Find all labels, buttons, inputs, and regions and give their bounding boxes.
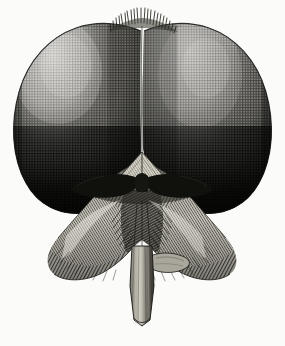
paper-tone-wash (0, 0, 285, 346)
fly-head-engraving (0, 0, 285, 346)
engraving-plate: Head of a Grey Drone-Fly copperplate eng… (0, 0, 285, 346)
